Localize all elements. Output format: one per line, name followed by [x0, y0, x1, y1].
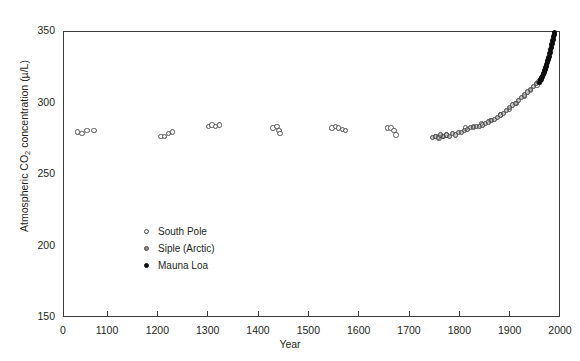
x-tick-label: 1800 [448, 324, 471, 336]
data-point [91, 128, 96, 133]
x-tick-mark [459, 311, 460, 317]
x-tick-label: 1300 [196, 324, 219, 336]
x-tick-mark [157, 311, 158, 317]
legend-marker-filled-circle-icon [141, 263, 152, 268]
x-tick-mark [358, 311, 359, 317]
x-tick-label: 2000 [548, 324, 571, 336]
x-axis-title: Year [0, 338, 580, 350]
x-tick-mark [207, 311, 208, 317]
data-point [170, 129, 175, 134]
data-point [84, 128, 89, 133]
legend-marker-gray-circle-icon [141, 246, 152, 251]
plot-area: South PoleSiple (Arctic)Mauna Loa [63, 31, 560, 317]
data-point [277, 131, 282, 136]
x-tick-mark [409, 311, 410, 317]
x-tick-mark [258, 311, 259, 317]
legend: South PoleSiple (Arctic)Mauna Loa [141, 223, 215, 274]
legend-item-label: South Pole [158, 226, 207, 237]
legend-item-siple-arctic[interactable]: Siple (Arctic) [141, 240, 215, 257]
x-tick-mark [308, 311, 309, 317]
x-tick-label: 1400 [246, 324, 269, 336]
data-point [393, 132, 398, 137]
y-tick-label: 250 [25, 167, 55, 179]
data-point [343, 128, 348, 133]
legend-marker-open-circle-icon [141, 229, 152, 234]
figure-root: Atmospheric CO2 concentration (µ/L) 1502… [0, 0, 580, 361]
y-tick-label: 350 [25, 24, 55, 36]
x-tick-label: 0 [60, 324, 66, 336]
legend-item-label: Mauna Loa [158, 260, 208, 271]
y-tick-label: 150 [25, 310, 55, 322]
legend-item-label: Siple (Arctic) [158, 243, 215, 254]
legend-item-south-pole[interactable]: South Pole [141, 223, 215, 240]
y-axis-title-subscript: 2 [23, 151, 32, 155]
x-tick-label: 1100 [96, 324, 119, 336]
x-tick-mark [509, 311, 510, 317]
x-tick-label: 1200 [146, 324, 169, 336]
y-tick-label: 200 [25, 239, 55, 251]
x-tick-label: 1900 [498, 324, 521, 336]
figure-caption [4, 353, 578, 361]
y-axis-title: Atmospheric CO2 concentration (µ/L) [18, 46, 30, 246]
x-tick-label: 1600 [347, 324, 370, 336]
data-point [217, 122, 222, 127]
x-tick-mark [107, 311, 108, 317]
legend-item-mauna-loa[interactable]: Mauna Loa [141, 257, 215, 274]
x-tick-label: 1500 [297, 324, 320, 336]
y-tick-label: 300 [25, 96, 55, 108]
x-tick-label: 1700 [397, 324, 420, 336]
